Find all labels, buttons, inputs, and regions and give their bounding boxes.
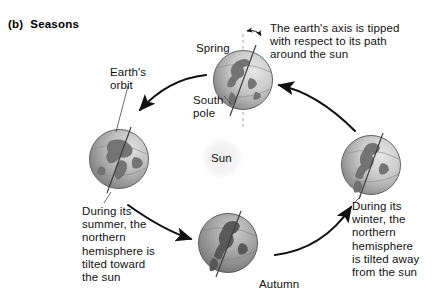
annotation-summer: During its summer, the northern hemisphe…: [82, 205, 168, 284]
tilt-angle-arrow: [247, 31, 261, 36]
leader-earths-orbit: [116, 86, 128, 132]
annotation-winter: During its winter, the northern hemisphe…: [352, 200, 442, 279]
globe-summer: [90, 127, 149, 193]
label-earths-orbit: Earth's orbit: [110, 66, 146, 92]
globe-winter: [342, 133, 401, 199]
label-autumn: Autumn: [259, 278, 299, 291]
label-sun: Sun: [211, 152, 232, 165]
globe-autumn: [199, 211, 258, 277]
orbit-arrow-winter-to-spring: [279, 85, 355, 131]
figure-caption-marker: (b): [8, 18, 23, 30]
figure-caption-text: Seasons: [30, 18, 79, 30]
figure-caption: (b)Seasons: [8, 18, 79, 30]
leader-summer-note: [104, 192, 111, 203]
label-south-pole: South pole: [193, 94, 224, 120]
orbit-arrow-autumn-to-winter: [275, 207, 351, 255]
annotation-axis-tilt: The earth's axis is tipped with respect …: [270, 22, 438, 62]
label-spring: Spring: [196, 42, 230, 55]
figure-canvas: (b)Seasons Spring South pole Earth's orb…: [0, 0, 442, 304]
